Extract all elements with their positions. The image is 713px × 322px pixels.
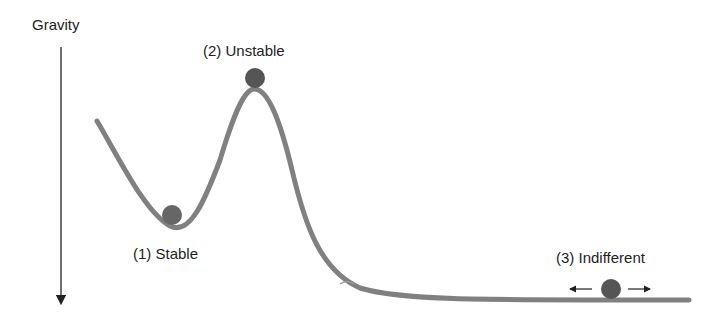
indifferent-label: (3) Indifferent: [556, 249, 645, 266]
equilibrium-diagram: Gravity (1) Stable (2) Unstable (3) Indi…: [0, 0, 713, 322]
indifferent-ball-icon: [601, 279, 621, 299]
unstable-label: (2) Unstable: [203, 42, 285, 59]
unstable-ball-icon: [245, 68, 265, 88]
potential-curve: [97, 89, 689, 300]
stable-ball-icon: [162, 205, 182, 225]
diagram-canvas: [0, 0, 713, 322]
gravity-label: Gravity: [32, 16, 80, 33]
stable-label: (1) Stable: [133, 245, 198, 262]
